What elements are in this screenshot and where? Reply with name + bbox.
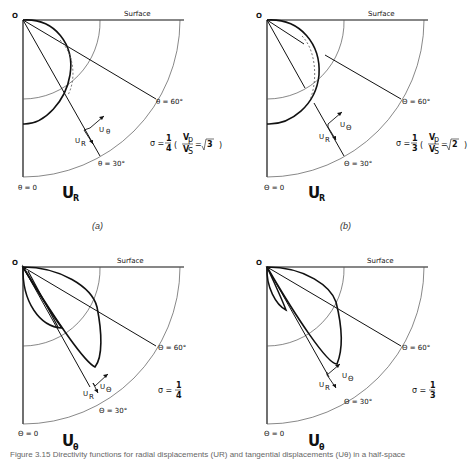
panel-label-a: (a)	[92, 221, 103, 231]
theta-0-label: Θ = 0	[264, 184, 284, 192]
u-theta-sub: θ	[106, 128, 110, 136]
ray-60	[23, 267, 156, 346]
secondary-lobe	[267, 267, 286, 310]
svg-text:(: (	[420, 141, 423, 150]
sigma-num: 1	[166, 134, 172, 143]
u-theta-label: U	[342, 372, 347, 380]
sigma-den: 4	[176, 391, 182, 400]
vs-sub: S	[188, 147, 193, 156]
u-theta-sub: Θ	[106, 386, 112, 394]
surface-label: Surface	[117, 257, 144, 265]
u-r-sub: R	[325, 136, 330, 144]
plot-title-sub: R	[319, 194, 325, 203]
sigma-num: 1	[430, 381, 436, 390]
panel-label-b: (b)	[340, 221, 351, 231]
directivity-curve	[267, 20, 319, 124]
u-r-sub: R	[89, 393, 94, 401]
surface-label: Surface	[124, 10, 151, 18]
ray-30	[314, 103, 344, 156]
surface-label: Surface	[368, 10, 395, 18]
theta-0-label: Θ = 0	[264, 430, 284, 438]
panel-utheta-sigma-quarter: O Surface Θ = 60° Θ = 30° Θ = 0 U Θ U R …	[0, 247, 236, 462]
directivity-plot: O Surface Θ = 60° Θ = 30° Θ = 0 U Θ U R …	[236, 247, 472, 462]
svg-text:σ =: σ =	[396, 139, 410, 148]
u-theta-label: U	[340, 121, 345, 129]
origin-label: O	[12, 12, 18, 20]
ray-30-inner	[267, 20, 305, 88]
svg-text:(: (	[174, 141, 177, 150]
svg-text:σ =: σ =	[150, 139, 164, 148]
main-lobe	[267, 267, 341, 364]
u-r-sub: R	[81, 140, 86, 148]
theta-30-label: θ = 30°	[98, 160, 125, 168]
panel-utheta-sigma-third: O Surface Θ = 60° Θ = 30° Θ = 0 U Θ U R …	[236, 247, 472, 462]
theta-0-label: θ = 0	[18, 184, 37, 192]
main-lobe	[23, 267, 101, 367]
ray-30	[23, 20, 100, 156]
directivity-curve	[23, 20, 71, 124]
u-r-sub: R	[325, 384, 330, 392]
svg-text:σ =: σ =	[412, 386, 426, 395]
root-value: 3	[207, 140, 213, 149]
theta-30-label: Θ = 30°	[99, 407, 127, 415]
theta-0-label: Θ = 0	[18, 430, 38, 438]
u-r-label: U	[83, 390, 88, 398]
directivity-plot: O Surface θ = 60° θ = 30° θ = 0 U θ U R …	[0, 0, 236, 215]
root-value: 2	[452, 140, 458, 149]
u-r-label: U	[319, 133, 324, 141]
sigma-expression: σ = 1 3	[412, 381, 436, 400]
surface-label: Surface	[367, 257, 394, 265]
inner-arc	[267, 267, 344, 346]
origin-label: O	[256, 12, 262, 20]
sigma-den: 3	[430, 391, 436, 400]
directivity-plot: O Surface Θ = 60° Θ = 30° Θ = 0 U Θ U R …	[236, 0, 472, 215]
theta-60-label: Θ = 60°	[402, 344, 430, 352]
u-theta-label: U	[99, 126, 104, 134]
sigma-expression: σ = 1 4	[158, 381, 182, 400]
sigma-num: 1	[412, 134, 418, 143]
theta-60-label: θ = 60°	[156, 98, 183, 106]
ray-60	[325, 55, 401, 99]
svg-text:): )	[219, 141, 222, 150]
svg-text:=: =	[441, 140, 448, 149]
svg-text:σ =: σ =	[158, 386, 172, 395]
theta-30-label: Θ = 30°	[344, 398, 372, 406]
inner-arc	[23, 267, 100, 346]
sigma-expression: σ = 1 3 ( V p V S = 2 )	[396, 133, 467, 156]
u-theta-sub: Θ	[348, 375, 354, 383]
theta-60-label: Θ = 60°	[402, 98, 430, 106]
vs-sub: S	[434, 147, 439, 156]
sigma-den: 4	[166, 144, 172, 153]
panel-ur-sigma-quarter: O Surface θ = 60° θ = 30° θ = 0 U θ U R …	[0, 0, 236, 215]
svg-text:): )	[464, 141, 467, 150]
svg-text:=: =	[195, 140, 202, 149]
origin-label: O	[12, 259, 18, 267]
u-theta-label: U	[100, 383, 105, 391]
sigma-den: 3	[412, 144, 418, 153]
figure-caption: Figure 3.15 Directivity functions for ra…	[10, 450, 470, 459]
ray-60	[267, 267, 401, 346]
ray-60	[23, 20, 156, 99]
ray-60-inner	[267, 20, 304, 44]
plot-title-sub: R	[73, 194, 79, 203]
vp-sub: p	[434, 135, 439, 144]
theta-30-label: Θ = 30°	[344, 160, 372, 168]
directivity-plot: O Surface Θ = 60° Θ = 30° Θ = 0 U Θ U R …	[0, 247, 236, 462]
u-theta-sub: Θ	[346, 124, 352, 132]
panel-ur-sigma-third: O Surface Θ = 60° Θ = 30° Θ = 0 U Θ U R …	[236, 0, 472, 215]
vp-sub: p	[188, 135, 193, 144]
u-r-label: U	[319, 381, 324, 389]
theta-60-label: Θ = 60°	[158, 344, 186, 352]
u-r-label: U	[75, 137, 80, 145]
sigma-expression: σ = 1 4 ( V p V S = 3 )	[150, 133, 222, 156]
sigma-num: 1	[176, 381, 182, 390]
origin-label: O	[256, 259, 262, 267]
